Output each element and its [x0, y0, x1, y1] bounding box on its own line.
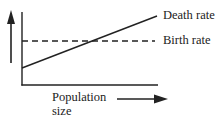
x-axis-label-line1: Population: [52, 91, 106, 104]
birth-rate-label: Birth rate: [163, 34, 211, 47]
y-arrow-icon: [7, 10, 15, 63]
x-axis-label-line2: size: [52, 105, 71, 118]
x-arrow-icon: [117, 95, 168, 104]
death-rate-line: [22, 16, 157, 68]
death-rate-label: Death rate: [163, 9, 215, 22]
